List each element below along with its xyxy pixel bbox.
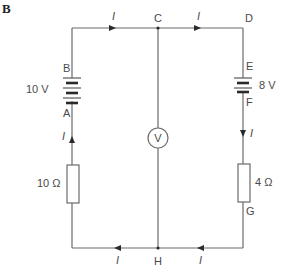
circuit-diagram: B 10 V 8 V — [0, 0, 286, 272]
junction-h — [156, 246, 159, 249]
resistor-4-ohm-label: 4 Ω — [255, 176, 272, 188]
node-label-e: E — [246, 60, 253, 72]
node-label-g: G — [246, 205, 255, 217]
resistor-10-ohm-label: 10 Ω — [37, 177, 61, 189]
current-label: I — [250, 127, 253, 139]
voltmeter-symbol: V — [154, 132, 162, 144]
node-label-d: D — [245, 12, 253, 24]
node-label-f: F — [246, 96, 253, 108]
current-arrow-up-icon — [69, 136, 75, 143]
resistor-4-ohm — [238, 164, 250, 202]
node-label-a: A — [63, 107, 71, 119]
current-arrow-right-icon — [194, 25, 201, 31]
current-label: I — [197, 10, 200, 22]
voltmeter: V — [148, 128, 168, 148]
current-label: I — [112, 10, 115, 22]
battery-8v-label: 8 V — [259, 79, 276, 91]
current-label: I — [62, 130, 65, 142]
current-arrow-down-icon — [240, 130, 246, 137]
battery-10v-label: 10 V — [26, 83, 49, 95]
current-arrow-left-icon — [114, 245, 121, 251]
current-arrow-right-icon — [109, 25, 116, 31]
current-label: I — [116, 254, 119, 266]
figure-label: B — [2, 1, 11, 16]
battery-8v — [234, 78, 252, 92]
node-label-c: C — [154, 12, 162, 24]
resistor-10-ohm — [67, 165, 79, 203]
battery-10v — [63, 78, 81, 103]
current-label: I — [199, 254, 202, 266]
node-label-b: B — [63, 62, 70, 74]
current-arrow-left-icon — [197, 245, 204, 251]
node-label-h: H — [154, 255, 162, 267]
junction-c — [156, 26, 159, 29]
